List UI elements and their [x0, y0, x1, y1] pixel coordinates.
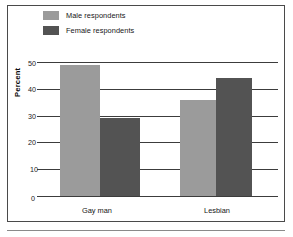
y-axis-title: Percent [13, 68, 22, 97]
bar-lesbian-male [180, 100, 216, 196]
y-tick-label-50: 50 [28, 59, 36, 68]
x-tick-label-gay-man: Gay man [60, 206, 134, 215]
gridline-0 [37, 196, 278, 197]
gridline-50 [37, 62, 278, 63]
bar-lesbian-female [216, 78, 252, 196]
plot-area [37, 62, 278, 196]
y-tick-label-20: 20 [28, 138, 36, 147]
bar-gay-man-female [100, 118, 140, 196]
y-tick-label-0: 0 [31, 194, 35, 203]
y-tick-label-40: 40 [28, 85, 36, 94]
x-tick-label-lesbian: Lesbian [180, 206, 254, 215]
bar-gay-man-male [60, 65, 100, 196]
chart-plot-wrapper: Percent 50 40 30 20 10 0 Gay man Lesbian [0, 0, 293, 237]
y-tick-label-30: 30 [28, 112, 36, 121]
